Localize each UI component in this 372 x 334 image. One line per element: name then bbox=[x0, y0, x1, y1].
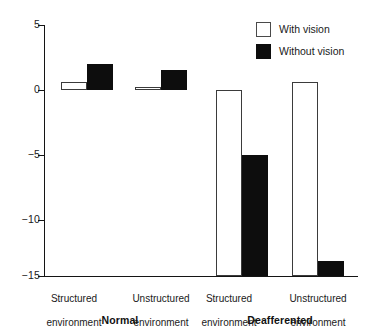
y-tick-label-0: 0 bbox=[34, 84, 40, 95]
y-tick-label--5: −5 bbox=[28, 149, 40, 160]
category-label-deafferented-unstructured: Unstructured environment bbox=[281, 281, 355, 334]
category-label-deafferented-structured: Structured environment bbox=[197, 281, 261, 334]
bar-without-vision-deafferented-unstructured bbox=[318, 261, 344, 276]
legend-item-without-vision: Without vision bbox=[256, 40, 368, 62]
y-axis-line bbox=[44, 25, 45, 277]
bar-with-vision-deafferented-structured bbox=[216, 90, 242, 276]
category-label-line1: Structured bbox=[197, 293, 261, 305]
legend-swatch-open-icon bbox=[256, 22, 271, 37]
category-label-line1: Structured bbox=[42, 293, 106, 305]
group-label-deafferented: Deafferented bbox=[230, 314, 330, 326]
x-axis-line bbox=[44, 276, 358, 277]
bar-without-vision-normal-unstructured bbox=[161, 70, 187, 90]
legend-item-with-vision: With vision bbox=[256, 18, 368, 40]
bar-with-vision-normal-unstructured bbox=[135, 87, 161, 90]
category-label-normal-unstructured: Unstructured environment bbox=[124, 281, 198, 334]
category-label-line1: Unstructured bbox=[124, 293, 198, 305]
y-tick-label-5: 5 bbox=[34, 19, 40, 30]
category-label-line1: Unstructured bbox=[281, 293, 355, 305]
legend-swatch-filled-icon bbox=[256, 44, 271, 59]
legend: With vision Without vision bbox=[256, 18, 368, 62]
bar-with-vision-normal-structured bbox=[61, 82, 87, 90]
legend-label-with-vision: With vision bbox=[279, 24, 330, 35]
bar-with-vision-deafferented-unstructured bbox=[292, 82, 318, 276]
legend-label-without-vision: Without vision bbox=[279, 46, 344, 57]
bar-chart: 5 0 −5 −10 −15 Structured environment Un… bbox=[0, 0, 372, 334]
bar-without-vision-deafferented-structured bbox=[242, 155, 268, 276]
y-tick-label--10: −10 bbox=[22, 214, 40, 225]
category-label-normal-structured: Structured environment bbox=[42, 281, 106, 334]
bar-without-vision-normal-structured bbox=[87, 64, 113, 90]
group-label-normal: Normal bbox=[80, 314, 160, 326]
y-tick-label--15: −15 bbox=[22, 270, 40, 281]
